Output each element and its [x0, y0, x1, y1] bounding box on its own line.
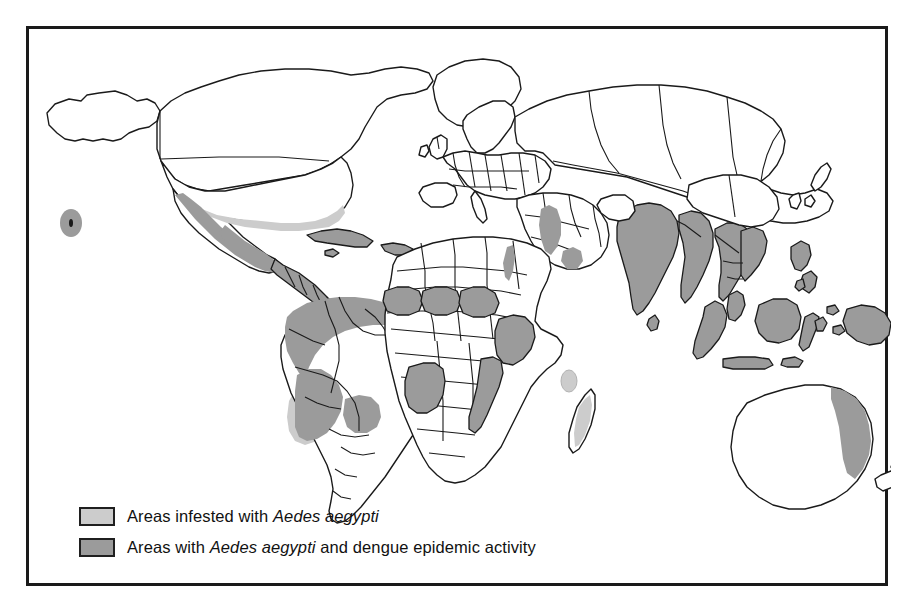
map-legend: Areas infested with Aedes aegypti Areas … — [79, 501, 779, 563]
figure-root: .land{fill:#ffffff;stroke:#1a1a1a;stroke… — [0, 0, 917, 616]
legend-swatch-infested — [79, 507, 115, 526]
legend-text-after-epidemic: and dengue epidemic activity — [316, 538, 536, 556]
legend-species-epidemic: Aedes aegypti — [210, 538, 316, 556]
legend-row-epidemic: Areas with Aedes aegypti and dengue epid… — [79, 532, 779, 563]
legend-species-infested: Aedes aegypti — [273, 507, 379, 525]
map-frame: .land{fill:#ffffff;stroke:#1a1a1a;stroke… — [26, 26, 888, 586]
legend-label-infested: Areas infested with Aedes aegypti — [127, 507, 379, 526]
legend-row-infested: Areas infested with Aedes aegypti — [79, 501, 779, 532]
shade-west-africa — [383, 287, 499, 317]
legend-swatch-epidemic — [79, 538, 115, 557]
legend-text-before-infested: Areas infested with — [127, 507, 273, 525]
legend-text-before-epidemic: Areas with — [127, 538, 210, 556]
region-australia — [731, 385, 891, 509]
legend-label-epidemic: Areas with Aedes aegypti and dengue epid… — [127, 538, 536, 557]
